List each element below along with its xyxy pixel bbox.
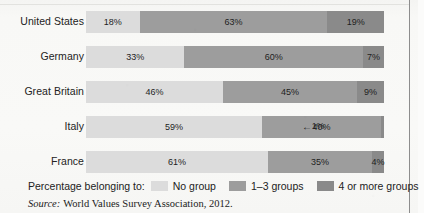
category-label: Italy (0, 120, 84, 132)
category-label: United States (0, 15, 84, 27)
bar-segment-value: 18% (104, 17, 122, 27)
bar-segment: 35% (268, 151, 372, 173)
legend-label-1-3-groups: 1–3 groups (251, 180, 304, 192)
bar-segment: 45% (223, 81, 357, 103)
bar-segment: 33% (86, 46, 184, 68)
bar-segment: 61% (86, 151, 268, 173)
bar-segment: 59% (86, 116, 262, 138)
legend-caption: Percentage belonging to: (28, 180, 145, 192)
bar-segment-value: 7% (367, 52, 380, 62)
figure-top-rule (0, 4, 409, 5)
bar-segment: 63% (140, 11, 328, 33)
arrow-left-icon: ← (302, 121, 312, 132)
plot-area: United States18%63%19%Germany33%60%7%Gre… (0, 10, 409, 185)
source-note: Source:World Values Survey Association, … (28, 198, 233, 209)
bar-segment: 9% (357, 81, 384, 103)
legend-label-no-group: No group (173, 180, 216, 192)
legend-item-4-or-more-groups: 4 or more groups (317, 180, 419, 192)
legend-swatch-1-3-groups (229, 181, 246, 191)
bar-segment-value: 63% (224, 17, 242, 27)
category-label: Great Britain (0, 85, 84, 97)
bar-segment: 46% (86, 81, 223, 103)
chart-row: Germany33%60%7% (0, 45, 409, 80)
stacked-bar: 46%45%9% (86, 81, 384, 103)
stacked-bar: 18%63%19% (86, 11, 384, 33)
source-text: World Values Survey Association, 2012. (63, 198, 232, 209)
bar-segment-value: 59% (165, 122, 183, 132)
bar-segment-value: 4% (372, 157, 385, 167)
category-label: France (0, 155, 84, 167)
bar-segment: 7% (363, 46, 384, 68)
chart-row: Italy59%40%1%←1% (0, 115, 409, 150)
bar-segment: 18% (86, 11, 140, 33)
bar-segment-value: 33% (126, 52, 144, 62)
bar-segment: 4% (372, 151, 384, 173)
bar-segment-value: 19% (347, 17, 365, 27)
legend-swatch-no-group (151, 181, 168, 191)
category-label: Germany (0, 50, 84, 62)
chart-row: United States18%63%19% (0, 10, 409, 45)
stacked-bar: 61%35%4% (86, 151, 384, 173)
stacked-bar: 33%60%7% (86, 46, 384, 68)
bar-segment: 60% (184, 46, 363, 68)
stacked-bar-chart-figure: United States18%63%19%Germany33%60%7%Gre… (0, 0, 424, 213)
stacked-bar: 59%40%1% (86, 116, 384, 138)
bar-segment-value: 40% (312, 122, 330, 132)
chart-row: Great Britain46%45%9% (0, 80, 409, 115)
bar-segment-value: 45% (281, 87, 299, 97)
bar-segment-value: 35% (311, 157, 329, 167)
legend-item-1-3-groups: 1–3 groups (229, 180, 304, 192)
legend-swatch-4-or-more-groups (317, 181, 334, 191)
legend-item-no-group: No group (151, 180, 216, 192)
source-label: Source: (28, 198, 60, 209)
bar-segment-value: 60% (265, 52, 283, 62)
bar-segment: 1% (381, 116, 384, 138)
bar-segment: 19% (327, 11, 384, 33)
chart-legend: Percentage belonging to: No group 1–3 gr… (28, 180, 424, 192)
legend-label-4-or-more-groups: 4 or more groups (339, 180, 419, 192)
bar-segment-value: 46% (146, 87, 164, 97)
bar-segment-value: 61% (168, 157, 186, 167)
bar-segment-value: 9% (364, 87, 377, 97)
